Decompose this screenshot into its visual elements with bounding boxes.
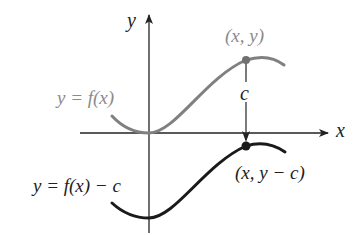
y-axis-label: y	[127, 10, 136, 30]
vertical-shift-diagram	[0, 0, 364, 235]
point-original	[242, 56, 250, 64]
curve-original	[112, 58, 284, 133]
point-shifted	[242, 142, 251, 151]
shifted-point-label: (x, y − c)	[235, 163, 305, 182]
original-point-label: (x, y)	[225, 26, 264, 45]
shift-label: c	[240, 83, 249, 103]
original-curve-label: y = f(x)	[57, 88, 114, 107]
shifted-curve-label: y = f(x) − c	[33, 176, 121, 195]
x-axis-label: x	[336, 120, 345, 140]
